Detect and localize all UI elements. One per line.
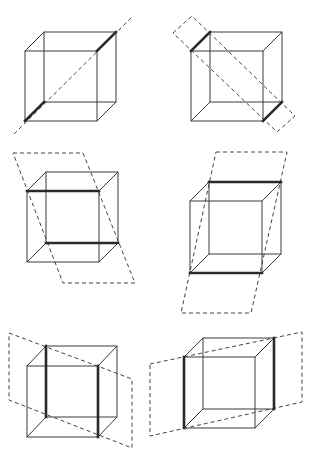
cube-depth-edge (27, 346, 46, 366)
cube-depth-edge (99, 172, 118, 191)
highlighted-edge (263, 102, 282, 121)
cube-5 (9, 333, 132, 448)
cube-depth-edge (191, 102, 210, 121)
cube-depth-edge (184, 338, 203, 357)
cube-4 (181, 152, 287, 313)
cube-depth-edge (99, 243, 118, 262)
cube-2 (173, 16, 295, 132)
cutting-plane (150, 332, 302, 436)
cube-depth-edge (255, 338, 274, 357)
cube-depth-edge (98, 417, 117, 437)
cube-depth-edge (255, 409, 274, 428)
cube-depth-edge (27, 172, 46, 191)
cube-depth-edge (98, 346, 117, 366)
cube-depth-edge (262, 182, 281, 201)
cube-depth-edge (263, 32, 282, 51)
cube-depth-edge (27, 243, 46, 262)
cube-depth-edge (27, 417, 46, 437)
cutting-plane (181, 152, 287, 313)
cube-depth-edge (190, 254, 209, 273)
cube-depth-edge (262, 254, 281, 273)
cube-6 (150, 332, 302, 436)
cube-plane-diagram (0, 0, 309, 460)
cube-3 (13, 153, 135, 283)
highlighted-edge (25, 102, 44, 121)
cube-1 (14, 16, 133, 134)
highlighted-edge (191, 32, 210, 51)
cube-depth-edge (97, 102, 116, 121)
cube-depth-edge (25, 32, 44, 51)
highlighted-edge (97, 32, 116, 51)
